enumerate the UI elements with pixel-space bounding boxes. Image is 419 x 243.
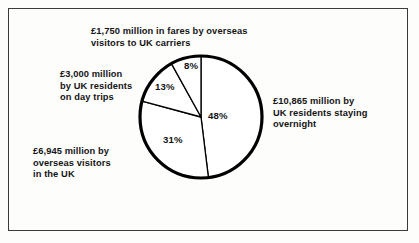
slice-percent-overnight: 48%: [208, 110, 228, 121]
slice-percent-fares: 8%: [184, 60, 198, 71]
callout-fares-label: £1,750 million in fares by overseas visi…: [91, 26, 247, 49]
callout-staying-overnight-label: £10,865 million by UK residents staying …: [273, 96, 367, 131]
callout-overseas-visitors-label: £6,945 million by overseas visitors in t…: [33, 146, 111, 181]
slice-percent-day-trips: 13%: [155, 81, 175, 92]
callout-day-trips-label: £3,000 million by UK residents on day tr…: [60, 69, 132, 104]
slice-percent-overseas: 31%: [163, 134, 183, 145]
figure-stage: £1,750 million in fares by overseas visi…: [0, 0, 419, 243]
